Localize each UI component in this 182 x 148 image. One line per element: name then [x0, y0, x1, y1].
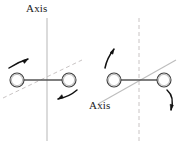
right-panel-mass-circle-left — [107, 73, 121, 87]
right-panel-rotation-arrow-upper — [105, 49, 114, 68]
left-panel-mass-circle-left — [10, 73, 24, 87]
right-panel — [98, 18, 176, 143]
left-panel-rotation-arrow-lower — [58, 90, 77, 99]
figure-canvas — [0, 0, 182, 148]
rotation-axis-figure: Axis Axis — [0, 0, 182, 148]
left-panel-axis-label: Axis — [26, 3, 48, 14]
right-panel-mass-circle-right — [157, 73, 171, 87]
right-panel-rotation-arrow-lower — [167, 90, 173, 110]
left-panel — [3, 18, 82, 141]
left-panel-rotation-arrow-upper — [9, 59, 28, 68]
left-panel-mass-circle-right — [62, 73, 76, 87]
right-panel-axis-label: Axis — [89, 100, 111, 111]
